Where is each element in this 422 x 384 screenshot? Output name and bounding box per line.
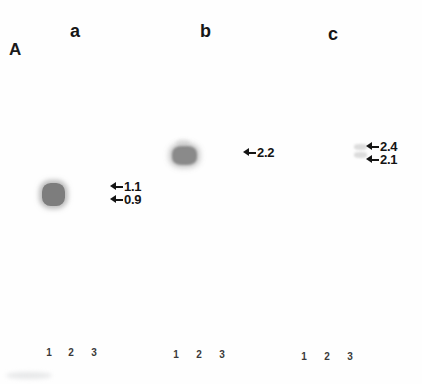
blot-band-b-lane1 xyxy=(172,146,197,165)
blot-band-a-lane1 xyxy=(42,183,65,206)
marker-group-column-c: 2.4 2.1 xyxy=(366,140,397,166)
lane-number-a-3: 3 xyxy=(89,348,99,358)
column-label-c: c xyxy=(328,25,338,43)
lane-number-c-2: 2 xyxy=(322,352,332,362)
marker-row-2-2: 2.2 xyxy=(243,146,274,159)
panel-label-A: A xyxy=(9,41,21,58)
arrow-left-icon xyxy=(110,195,123,204)
lane-number-a-2: 2 xyxy=(66,348,76,358)
autoradiograph-figure: A a b c 1.1 0.9 2.2 2.4 xyxy=(0,0,422,384)
marker-group-column-a: 1.1 0.9 xyxy=(110,180,141,206)
arrow-left-icon xyxy=(366,142,379,151)
film-smudge xyxy=(6,372,52,379)
lane-number-a-1: 1 xyxy=(44,348,54,358)
lane-number-b-3: 3 xyxy=(217,350,227,360)
marker-row-0-9: 0.9 xyxy=(110,193,141,206)
arrow-left-icon xyxy=(366,155,379,164)
arrow-left-icon xyxy=(110,182,123,191)
column-label-b: b xyxy=(200,22,211,40)
column-label-a: a xyxy=(70,22,80,40)
arrow-left-icon xyxy=(243,148,256,157)
marker-group-column-b: 2.2 xyxy=(243,146,274,159)
marker-value-label: 2.2 xyxy=(257,146,274,159)
marker-value-label: 2.1 xyxy=(380,153,397,166)
marker-row-2-1: 2.1 xyxy=(366,153,397,166)
lane-number-c-3: 3 xyxy=(345,352,355,362)
blot-band-b-lane1-halo xyxy=(176,139,190,146)
marker-value-label: 0.9 xyxy=(124,193,141,206)
lane-number-b-2: 2 xyxy=(194,350,204,360)
lane-number-b-1: 1 xyxy=(171,350,181,360)
lane-number-c-1: 1 xyxy=(299,352,309,362)
